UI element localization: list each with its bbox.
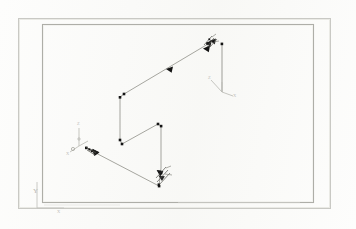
vertex-marker — [123, 93, 126, 96]
routed-path — [86, 44, 208, 186]
vertex-marker — [119, 96, 122, 99]
outer-border-shadow — [20, 20, 330, 208]
triad-left-y-arm — [79, 141, 88, 146]
routed-path-stroke — [86, 44, 208, 186]
node-cluster-bottom-center — [156, 166, 172, 186]
world-axis-x-label: X — [57, 210, 60, 215]
triad-right-x-arm — [222, 92, 233, 96]
technical-drawing-figure — [0, 0, 356, 229]
vertex-marker — [121, 143, 124, 146]
cluster-dot — [160, 172, 162, 174]
vertex-markers — [85, 42, 223, 187]
cluster-dot — [88, 148, 90, 150]
triad-left-x-label: X — [66, 152, 69, 157]
vertex-marker — [160, 125, 163, 128]
triad-right — [211, 80, 233, 96]
world-axis-y-label: Y — [33, 188, 38, 195]
node-cluster-left — [86, 147, 99, 156]
vertex-marker — [119, 139, 122, 142]
drawing-canvas: Y X Z X Z X — [0, 0, 356, 229]
cluster-dot — [158, 183, 160, 185]
inner-border-highlight — [44, 26, 313, 202]
cluster-dot — [212, 40, 214, 42]
triad-right-z-arm — [211, 80, 222, 92]
vertex-marker — [157, 123, 160, 126]
cluster-dot — [208, 38, 210, 40]
arrowheads — [93, 46, 210, 176]
world-axis-indicator — [37, 182, 64, 208]
outer-border — [19, 19, 331, 209]
inner-border — [43, 25, 314, 203]
vertex-marker — [221, 43, 224, 46]
triad-right-x-label: X — [233, 94, 236, 99]
triad-left-z-label: Z — [77, 122, 80, 127]
triad-right-z-label: Z — [208, 76, 211, 81]
